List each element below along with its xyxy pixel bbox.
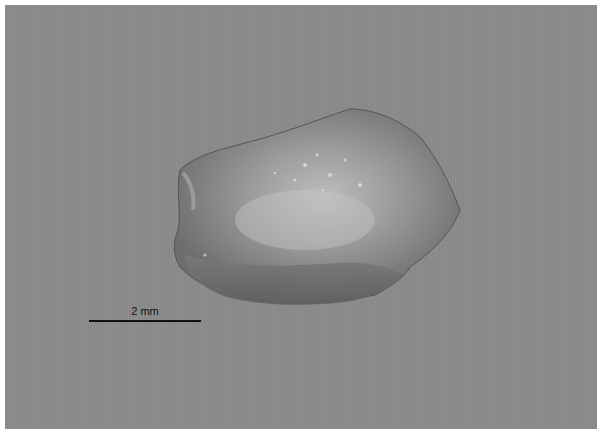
scale-bar-line — [89, 320, 201, 322]
scale-bar: 2 mm — [89, 305, 201, 322]
specimen-image — [5, 5, 597, 429]
scale-bar-label: 2 mm — [89, 305, 201, 317]
specimen-photo: 2 mm — [5, 5, 597, 429]
